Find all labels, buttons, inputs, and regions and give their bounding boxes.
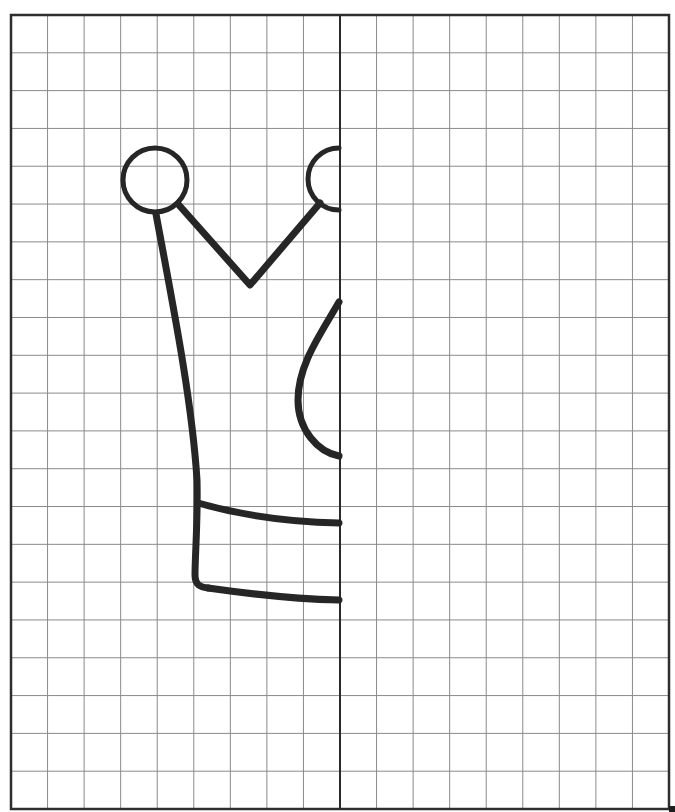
- scan-artifact-mark: [669, 806, 675, 812]
- page-background: [0, 0, 675, 812]
- symmetry-worksheet: [0, 0, 675, 812]
